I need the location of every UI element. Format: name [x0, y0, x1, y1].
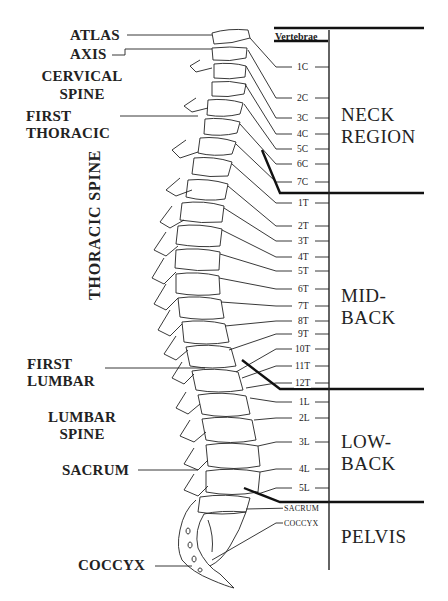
- tick-coccyx: COCCYX: [283, 519, 320, 529]
- region-pelvis: PELVIS: [341, 526, 407, 548]
- label-thoracic-spine: THORACIC SPINE: [86, 150, 104, 300]
- region-mid-back-line1: MID-: [341, 285, 396, 307]
- vertebrae-header: Vertebrae: [275, 31, 317, 42]
- tick-sacrum: SACRUM: [283, 504, 320, 514]
- tick-5c: 5C: [296, 144, 309, 154]
- tick-2c: 2C: [296, 93, 309, 103]
- spinous-processes: [152, 60, 212, 496]
- tick-1c: 1C: [296, 62, 309, 72]
- region-pelvis-line1: PELVIS: [341, 526, 407, 548]
- tick-4l: 4L: [298, 464, 311, 474]
- label-first-lumbar-2: LUMBAR: [27, 373, 95, 390]
- tick-3l: 3L: [298, 437, 311, 447]
- label-cervical: CERVICAL: [36, 68, 128, 85]
- label-cervical-spine: SPINE: [36, 86, 128, 103]
- tick-5l: 5L: [298, 483, 311, 493]
- label-atlas: ATLAS: [70, 27, 120, 44]
- tick-9t: 9T: [297, 329, 310, 339]
- tick-4c: 4C: [296, 129, 309, 139]
- label-lumbar: LUMBAR: [42, 409, 122, 426]
- region-low-back-line2: BACK: [341, 453, 396, 475]
- tick-1t: 1T: [297, 198, 310, 208]
- tick-8t: 8T: [297, 316, 310, 326]
- label-first-lumbar-1: FIRST: [27, 356, 72, 373]
- label-lumbar-spine: SPINE: [42, 426, 122, 443]
- tick-4t: 4T: [297, 252, 310, 262]
- tick-6c: 6C: [296, 159, 309, 169]
- region-neck-line1: NECK: [341, 104, 416, 126]
- tick-6t: 6T: [297, 284, 310, 294]
- label-first-thoracic-1: FIRST: [26, 108, 71, 125]
- region-low-back-line1: LOW-: [341, 431, 396, 453]
- tick-5t: 5T: [297, 266, 310, 276]
- region-neck: NECK REGION: [341, 104, 416, 148]
- label-coccyx: COCCYX: [78, 557, 145, 574]
- cervical-vertebrae: [198, 29, 250, 155]
- tick-3t: 3T: [297, 236, 310, 246]
- region-neck-line2: REGION: [341, 126, 416, 148]
- label-sacrum: SACRUM: [62, 462, 129, 479]
- tick-11t: 11T: [294, 361, 311, 371]
- label-first-thoracic-2: THORACIC: [26, 125, 110, 142]
- label-axis: AXIS: [70, 46, 107, 63]
- tick-2t: 2T: [297, 221, 310, 231]
- tick-7t: 7T: [297, 301, 310, 311]
- region-mid-back-line2: BACK: [341, 307, 396, 329]
- tick-12t: 12T: [294, 378, 311, 388]
- tick-1l: 1L: [298, 397, 311, 407]
- tick-2l: 2L: [298, 413, 311, 423]
- region-low-back: LOW- BACK: [341, 431, 396, 475]
- tick-7c: 7C: [296, 177, 309, 187]
- region-mid-back: MID- BACK: [341, 285, 396, 329]
- tick-10t: 10T: [294, 344, 311, 354]
- lumbar-vertebrae: [198, 393, 260, 514]
- tick-3c: 3C: [296, 113, 309, 123]
